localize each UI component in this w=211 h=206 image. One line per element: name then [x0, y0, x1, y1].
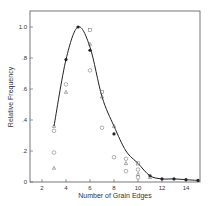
plot-frame: [30, 11, 200, 182]
x-tick-label: 6: [88, 185, 92, 191]
x-tick-label: 2: [40, 185, 44, 191]
x-tick-label: 14: [183, 185, 190, 191]
data-point-triangle: [52, 166, 55, 169]
y-tick-label: .6: [22, 86, 28, 92]
x-axis-title: Number of Grain Edges: [78, 192, 152, 200]
y-axis-ticks: 0.2.4.6.81.0: [19, 24, 33, 185]
data-point-triangle: [124, 162, 127, 165]
data-point-circle: [136, 176, 140, 180]
data-point-circle: [112, 155, 116, 159]
data-point-circle: [124, 157, 128, 161]
data-point-filled-circle: [88, 49, 91, 52]
data-point-circle: [88, 69, 92, 73]
data-point-circle: [124, 169, 128, 173]
data-point-filled-circle: [184, 178, 187, 181]
data-point-filled-circle: [112, 132, 115, 135]
x-tick-label: 10: [135, 185, 142, 191]
data-point-square: [88, 29, 91, 32]
data-point-filled-circle: [160, 177, 163, 180]
y-tick-label: .8: [22, 55, 28, 61]
data-point-circle: [136, 168, 140, 172]
data-point-filled-circle: [196, 179, 199, 182]
data-point-filled-circle: [64, 58, 67, 61]
data-point-circle: [52, 151, 56, 155]
y-tick-label: 0: [24, 179, 28, 185]
y-axis-title: Relative Frequency: [7, 66, 15, 127]
grain-edges-chart: 0.2.4.6.81.0 2468101214 Number of Grain …: [0, 0, 211, 206]
data-point-circle: [100, 126, 104, 130]
x-axis-ticks: 2468101214: [40, 179, 190, 191]
data-point-circle: [64, 83, 68, 87]
fitted-curve: [54, 27, 198, 181]
data-point-filled-circle: [76, 25, 79, 28]
data-point-circle: [52, 129, 56, 133]
y-tick-label: .4: [22, 117, 28, 123]
x-tick-label: 12: [159, 185, 166, 191]
data-points: [52, 25, 199, 182]
x-tick-label: 8: [112, 185, 116, 191]
y-tick-label: .2: [22, 148, 28, 154]
y-tick-label: 1.0: [19, 24, 28, 30]
x-tick-label: 4: [64, 185, 68, 191]
data-point-filled-circle: [172, 177, 175, 180]
data-point-triangle: [136, 172, 139, 175]
data-point-triangle: [64, 90, 67, 93]
